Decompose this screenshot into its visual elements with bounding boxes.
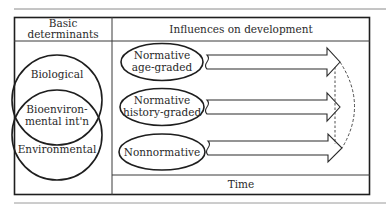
environmental-label: Environmental: [18, 143, 97, 155]
age-graded-arrow-icon: [206, 48, 341, 76]
overlap-label-line2: mental int'n: [25, 115, 89, 127]
nonnormative-label: Nonnormative: [124, 146, 200, 158]
history-graded-arrow-icon: [206, 93, 341, 121]
nonnormative-arrow-icon: [207, 134, 343, 162]
life-span-influences-diagram: Basic determinants Influences on develop…: [0, 0, 386, 207]
biological-label: Biological: [31, 68, 84, 80]
age-graded-line1: Normative: [134, 49, 190, 61]
interaction-dashed-arc: [340, 62, 355, 148]
right-header: Influences on development: [169, 23, 313, 35]
left-header-line2: determinants: [27, 28, 98, 40]
history-graded-line1: Normative: [134, 94, 190, 106]
history-graded-line2: history-graded: [123, 106, 201, 118]
age-graded-line2: age-graded: [132, 61, 193, 73]
time-label: Time: [228, 178, 255, 190]
overlap-label-line1: Bioenviron-: [26, 103, 88, 115]
